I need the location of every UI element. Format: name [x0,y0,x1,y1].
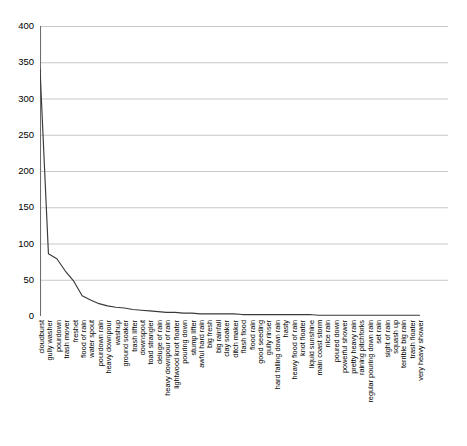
x-axis-tick-label: heavy downpour [105,320,113,374]
x-axis-tick-label: toad strangler [147,320,155,365]
x-axis-tick-labels: cloudburstgully washerpourdowntrash move… [40,320,467,446]
y-axis-tick-label: 50 [23,275,34,285]
x-axis-tick-label: clay soaker [223,320,231,357]
y-axis-tick-labels: 050100150200250300350400 [0,0,34,446]
plot-area [40,26,460,316]
x-axis-tick-label: sight of rain [384,320,392,358]
plot-svg [40,26,460,316]
y-axis-tick-label: 400 [18,21,34,31]
x-axis-tick-label: pouring down [181,320,189,364]
y-axis-tick-label: 350 [18,58,34,68]
x-axis-tick-label: ground soaker [122,320,130,367]
y-axis-tick-label: 0 [29,311,34,321]
x-axis-tick-label: knot floater [299,320,307,356]
x-axis-tick-label: freshet [72,320,80,342]
x-axis-tick-label: gully rinser [265,320,273,355]
x-axis-tick-label: heavy downpour of rain [164,320,172,396]
x-axis-tick-label: water spout [88,320,96,358]
x-axis-tick-label: very heavy shower [417,320,425,381]
y-axis-tick-label: 250 [18,130,34,140]
frequency-distribution-chart: 050100150200250300350400 cloudburstgully… [0,0,467,446]
y-axis-tick-label: 300 [18,94,34,104]
x-axis-tick-label: raining pitchforks [358,320,366,375]
gridlines [40,27,448,317]
y-axis-tick-label: 100 [18,239,34,249]
x-axis-tick-label: set rain [375,320,383,344]
x-axis-tick-label: trash lifter [131,320,139,352]
x-axis-tick-label: nice rain [324,320,332,348]
x-axis-tick-label: flash flood [240,320,248,353]
x-axis-tick-label: gully washer [46,320,54,360]
x-axis-tick-label: terrible big rain [400,320,408,368]
x-axis-tick-label: powerful shower [341,320,349,373]
x-axis-tick-label: trash mover [63,320,71,358]
data-series-line [40,69,419,315]
y-axis-tick-label: 200 [18,166,34,176]
x-axis-tick-label: hasty [282,320,290,337]
x-axis-tick-label: big fresh [206,320,214,348]
y-axis-tick-label: 150 [18,203,34,213]
